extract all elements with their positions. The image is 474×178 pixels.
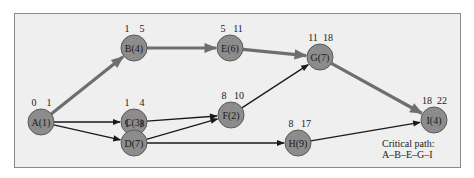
node-label: D(7) [125,138,144,150]
early-start-label: 18 [422,95,432,106]
early-finish-label: 10 [234,90,244,101]
node-A: A(1)01 [28,97,54,135]
node-E: E(6)511 [217,23,243,61]
node-H: H(9)817 [285,118,311,156]
node-C: C(3)14 [121,97,147,135]
early-start-label: 8 [222,90,227,101]
node-I: I(4)1822 [421,95,447,133]
legend-title: Critical path: [382,138,435,149]
early-finish-label: 5 [140,23,145,34]
edge-G-I [331,63,421,113]
node-label: G(7) [311,52,330,64]
node-label: E(6) [221,43,239,55]
early-finish-label: 4 [140,97,145,108]
early-finish-label: 11 [233,23,243,34]
early-start-label: 8 [289,118,294,129]
nodes-layer: A(1)01B(4)15C(3)14D(7)18E(6)511F(2)810G(… [28,23,447,156]
early-start-label: 0 [32,97,37,108]
early-start-label: 11 [308,32,318,43]
node-label: B(4) [125,43,143,55]
early-start-label: 1 [125,118,130,129]
edge-F-G [242,65,308,108]
node-label: H(9) [289,138,308,150]
early-finish-label: 8 [140,118,145,129]
early-finish-label: 17 [301,118,311,129]
early-finish-label: 18 [323,32,333,43]
node-B: B(4)15 [121,23,147,61]
node-G: G(7)1118 [307,32,333,70]
edge-D-F [146,119,217,140]
early-start-label: 5 [221,23,226,34]
early-start-label: 1 [125,23,130,34]
edge-C-F [147,116,217,121]
node-label: A(1) [32,117,51,129]
node-label: F(2) [222,110,239,122]
early-finish-label: 1 [47,97,52,108]
critical-path-legend: Critical path: A–B–E–G–I [382,138,435,160]
edge-A-B [51,57,123,114]
edge-A-D [54,125,121,140]
node-label: I(4) [427,115,442,127]
legend-path: A–B–E–G–I [382,149,435,160]
node-F: F(2)810 [218,90,244,128]
edge-E-G [243,49,306,55]
early-finish-label: 22 [437,95,447,106]
early-start-label: 1 [125,97,130,108]
